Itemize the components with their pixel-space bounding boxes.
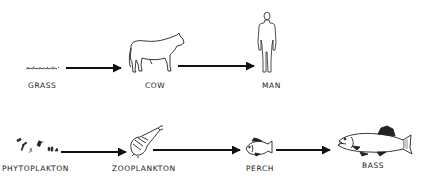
label-grass: GRASS: [28, 81, 56, 90]
phytoplankton-icon: [17, 138, 58, 153]
label-bass: BASS: [362, 161, 384, 170]
label-cow: COW: [145, 81, 165, 90]
perch-icon: [246, 138, 272, 156]
bass-icon: [338, 126, 412, 156]
label-man: MAN: [262, 81, 281, 90]
zooplankton-icon: [131, 126, 163, 158]
label-phytoplankton: PHYTOPLAKTON: [2, 164, 69, 173]
man-icon: [258, 12, 276, 72]
label-perch: PERCH: [246, 164, 274, 173]
food-chain-diagram: [0, 0, 423, 182]
grass-icon: [26, 67, 59, 70]
label-zooplankton: ZOOPLANKTON: [112, 164, 176, 173]
cow-icon: [129, 33, 184, 72]
